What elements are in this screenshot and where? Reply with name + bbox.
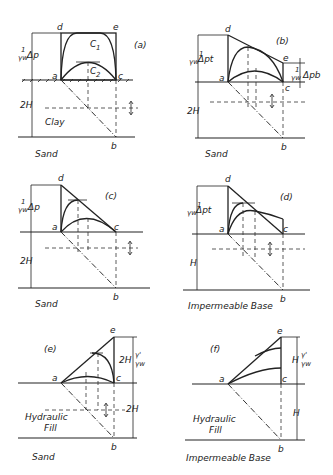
panel-b: d e (b) a c b 1 γw Δpt 1 γw Δpb 2H Sand xyxy=(187,24,321,159)
point-c: c xyxy=(118,71,123,81)
gamma-prime: γ' xyxy=(301,351,307,359)
dim-h-top: H xyxy=(292,355,299,365)
point-c: c xyxy=(283,224,288,234)
curve-sub-c1: 1 xyxy=(96,44,100,52)
gamma-prime: γ' xyxy=(135,351,141,359)
layer-sand: Sand xyxy=(35,299,58,309)
dim-h: H xyxy=(293,408,300,418)
point-a: a xyxy=(52,222,58,232)
layer-clay: Clay xyxy=(45,117,65,127)
panel-label-b: (b) xyxy=(276,36,289,46)
point-d: d xyxy=(57,22,63,32)
gamma-w: γw xyxy=(135,360,145,368)
dim-dp: Δp xyxy=(27,202,40,212)
dim-2h-top: 2H xyxy=(119,355,132,365)
panel-label-d: (d) xyxy=(280,192,293,202)
layer-sand: Sand xyxy=(35,149,58,159)
point-a: a xyxy=(52,373,58,383)
point-b: b xyxy=(281,142,287,152)
panel-c: d (c) a c b 1 γw Δp 2H Sand xyxy=(18,173,150,309)
point-e: e xyxy=(277,326,283,336)
panel-label-f: (f) xyxy=(210,344,220,354)
dim-dp: Δp xyxy=(26,50,39,60)
dim-h: H xyxy=(190,258,197,268)
layer-fill: Fill xyxy=(209,425,222,435)
frac-num: 1 xyxy=(21,198,25,206)
layer-impermeable: Impermeable Base xyxy=(188,301,273,311)
point-b: b xyxy=(113,292,119,302)
point-a: a xyxy=(52,71,58,81)
dim-dpt: Δpt xyxy=(195,205,212,215)
point-a: a xyxy=(219,73,225,83)
layer-impermeable: Impermeable Base xyxy=(186,453,271,463)
panel-a: d e (a) C 1 C 2 a c b 1 γw Δp 2H Clay Sa… xyxy=(18,22,147,159)
frac-num: 1 xyxy=(21,46,25,54)
point-b: b xyxy=(111,141,117,151)
point-e: e xyxy=(283,53,289,63)
dim-dpt: Δpt xyxy=(197,54,214,64)
layer-sand: Sand xyxy=(205,149,228,159)
layer-fill: Fill xyxy=(44,423,57,433)
point-e: e xyxy=(113,22,119,32)
point-a: a xyxy=(219,224,225,234)
point-d: d xyxy=(58,173,64,183)
dim-2h: 2H xyxy=(20,100,33,110)
curve-sub-c2: 2 xyxy=(96,71,101,79)
panel-label-a: (a) xyxy=(134,40,147,50)
point-c: c xyxy=(285,83,290,93)
frac-den: γw xyxy=(18,206,28,214)
frac-den-b: γw xyxy=(291,74,301,82)
layer-sand: Sand xyxy=(32,452,55,462)
layer-hydraulic: Hydraulic xyxy=(25,412,68,422)
point-c: c xyxy=(282,374,287,384)
panel-d: d (d) a c b 1 γw Δpt H Impermeable Base xyxy=(183,174,310,311)
dim-dpb: Δpb xyxy=(302,70,321,80)
dim-2h: 2H xyxy=(126,404,139,414)
point-c: c xyxy=(114,222,119,232)
panel-e: e (e) a c b 2H γ' γw 2H Hydraulic Fill S… xyxy=(18,325,145,462)
layer-hydraulic: Hydraulic xyxy=(193,414,236,424)
point-b: b xyxy=(278,444,284,454)
panel-f: e (f) a c b H γ' γw H Hydraulic Fill Imp… xyxy=(185,326,311,463)
point-b: b xyxy=(111,442,117,452)
consolidation-diagram: d e (a) C 1 C 2 a c b 1 γw Δp 2H Clay Sa… xyxy=(0,0,333,475)
point-e: e xyxy=(110,325,116,335)
dim-2h: 2H xyxy=(187,106,200,116)
point-a: a xyxy=(219,374,225,384)
point-b: b xyxy=(280,294,286,304)
point-d: d xyxy=(225,24,231,34)
point-c: c xyxy=(116,373,121,383)
point-d: d xyxy=(225,174,231,184)
dim-2h: 2H xyxy=(20,256,33,266)
panel-label-e: (e) xyxy=(44,344,57,354)
panel-label-c: (c) xyxy=(105,191,117,201)
gamma-w: γw xyxy=(301,360,311,368)
frac-num-b: 1 xyxy=(295,66,299,74)
